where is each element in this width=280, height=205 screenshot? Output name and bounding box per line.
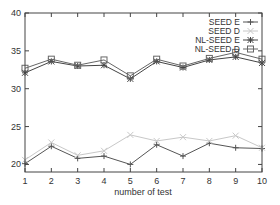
x-tick-label: 5 bbox=[128, 176, 133, 186]
line-chart: 2025303540 12345678910 number of test SE… bbox=[0, 0, 280, 205]
x-tick-label: 7 bbox=[180, 176, 185, 186]
x-axis-label: number of test bbox=[114, 187, 172, 197]
plus-marker-icon bbox=[180, 153, 186, 159]
series-seed-e bbox=[22, 140, 265, 167]
legend-label: NL-SEED D bbox=[195, 44, 240, 54]
plus-marker-icon bbox=[75, 155, 81, 161]
y-tick-label: 20 bbox=[11, 159, 21, 169]
y-tick-label: 25 bbox=[11, 122, 21, 132]
plus-marker-icon bbox=[248, 19, 254, 25]
x-tick-label: 8 bbox=[207, 176, 212, 186]
plot-series bbox=[22, 49, 265, 167]
x-tick-label: 3 bbox=[75, 176, 80, 186]
series-line bbox=[25, 135, 262, 160]
y-tick-label: 35 bbox=[11, 46, 21, 56]
plus-marker-icon bbox=[101, 153, 107, 159]
x-tick-label: 6 bbox=[154, 176, 159, 186]
series-line bbox=[25, 143, 262, 164]
y-tick-label: 30 bbox=[11, 84, 21, 94]
series-line bbox=[25, 52, 262, 75]
x-tick-label: 9 bbox=[233, 176, 238, 186]
legend: SEED ESEED DNL-SEED ENL-SEED D bbox=[195, 17, 258, 54]
x-tick-label: 4 bbox=[101, 176, 106, 186]
star-marker-icon bbox=[233, 54, 239, 60]
x-tick-label: 2 bbox=[49, 176, 54, 186]
star-marker-icon bbox=[248, 37, 254, 43]
plus-marker-icon bbox=[233, 145, 239, 151]
x-tick-label: 1 bbox=[22, 176, 27, 186]
x-tick-label: 10 bbox=[257, 176, 267, 186]
y-tick-label: 40 bbox=[11, 8, 21, 18]
series-seed-d bbox=[22, 132, 265, 163]
